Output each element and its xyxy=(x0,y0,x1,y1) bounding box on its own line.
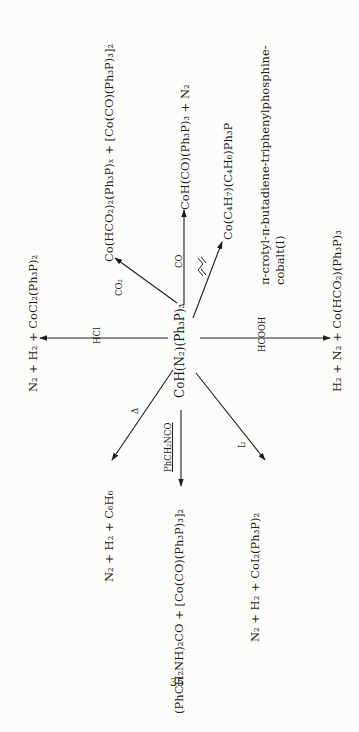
center-compound: CoH(N₂)(Ph₃P)₃ xyxy=(173,304,187,398)
arrow-co2 xyxy=(115,258,177,303)
annotation-line-1: π-crotyl-π-butadiene-triphenylphosphine- xyxy=(258,45,272,285)
reagent-hcl: HCl xyxy=(92,327,102,344)
product-hcooh: H₂ + N₂ + Co(HCO₂)(Ph₃P)₃ xyxy=(330,230,344,392)
product-hcl: N₂ + H₂ + CoCl₂(Ph₃P)₂ xyxy=(26,255,40,392)
reagent-i2: I₂ xyxy=(237,441,247,448)
reagent-hcooh: HCOOH xyxy=(257,317,267,352)
product-i2: N₂ + H₂ + CoI₂(Ph₃P)₂ xyxy=(248,513,262,642)
page-number: 35 xyxy=(170,676,184,689)
butadiene-icon xyxy=(198,258,203,276)
product-co: CoH(CO)(Ph₃P)₃ + N₂ xyxy=(178,84,192,210)
annotation-line-2: cobalt(I) xyxy=(273,236,287,285)
reagent-co: CO xyxy=(174,255,184,268)
product-heat: N₂ + H₂ + C₆H₆ xyxy=(102,491,116,582)
arrow-butadiene xyxy=(193,242,222,318)
reagent-phch2nco: PhCH₂NCO xyxy=(163,423,173,472)
product-butadiene: Co(C₄H₇)(C₄H₆)Ph₃P xyxy=(221,123,235,240)
reagent-heat: Δ xyxy=(130,408,140,414)
reagent-co2: CO₂ xyxy=(114,279,124,296)
arrow-i2 xyxy=(196,373,265,460)
product-co2: Co(HCO₂)₂(Ph₃P)ₓ + [Co(CO)(Ph₃P)₃]₂ xyxy=(102,44,116,262)
